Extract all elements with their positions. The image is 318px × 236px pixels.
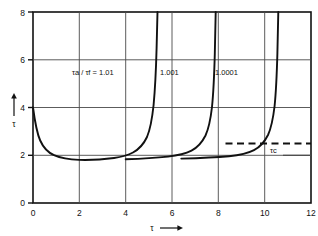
annotation-series-1: τa / τf = 1.01: [72, 68, 114, 77]
x-tick-0: 0: [31, 208, 36, 218]
y-tick-6: 6: [20, 55, 25, 65]
y-tick-labels: 0 2 4 6 8: [20, 8, 25, 209]
y-axis-arrow-icon: [11, 93, 17, 99]
x-tick-labels: 0 2 4 6 8 10 12: [31, 208, 316, 218]
y-tick-0: 0: [20, 198, 25, 208]
x-axis-label-text: τ: [150, 223, 154, 233]
x-axis-arrow-icon: [177, 225, 183, 231]
label-tauc: τc: [270, 146, 277, 155]
y-axis-label-text: τ: [12, 119, 16, 129]
x-tick-10: 10: [260, 208, 270, 218]
annotation-series-3: 1.0001: [215, 68, 238, 77]
y-tick-8: 8: [20, 8, 25, 18]
x-axis-label: τ: [150, 223, 183, 233]
y-tick-4: 4: [20, 103, 25, 113]
chart-svg: 0 2 4 6 8 0 2 4 6 8 10 12 τa / τf = 1.01…: [0, 0, 318, 236]
x-tick-8: 8: [216, 208, 221, 218]
figure-container: 0 2 4 6 8 0 2 4 6 8 10 12 τa / τf = 1.01…: [0, 0, 318, 236]
y-axis-label: τ: [11, 93, 17, 129]
y-tick-2: 2: [20, 150, 25, 160]
annotation-series-2: 1.001: [160, 68, 179, 77]
x-tick-12: 12: [306, 208, 316, 218]
x-tick-6: 6: [170, 208, 175, 218]
x-tick-4: 4: [123, 208, 128, 218]
x-tick-2: 2: [77, 208, 82, 218]
